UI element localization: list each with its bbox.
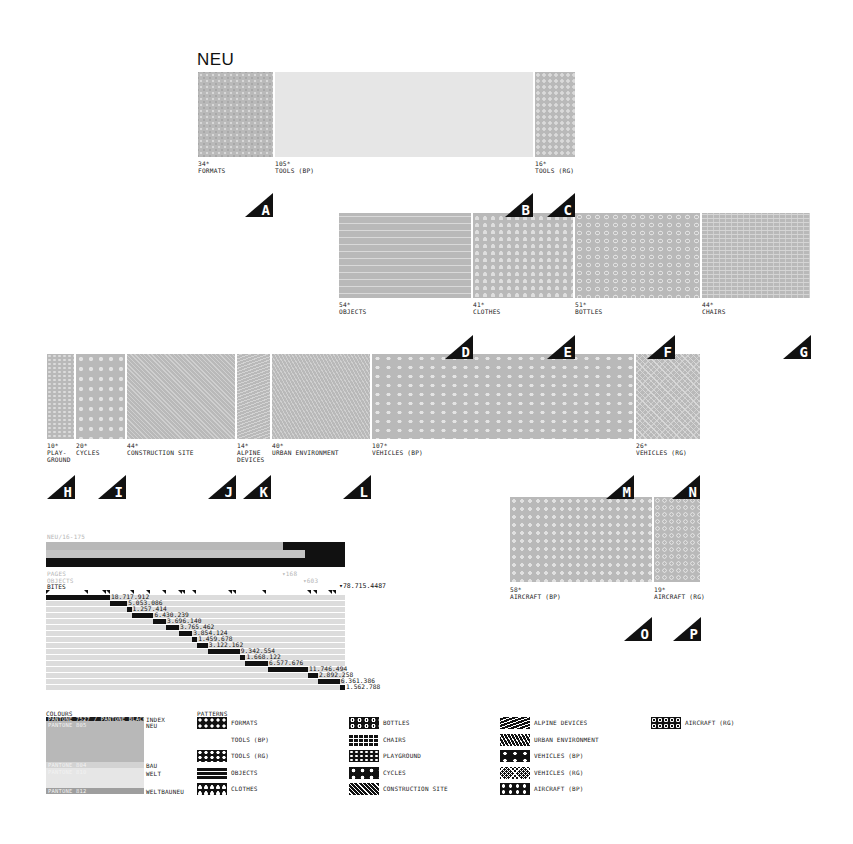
- swatch-bau-name: PANTONE 804: [48, 762, 87, 768]
- value-objects-text: 603: [307, 577, 318, 584]
- label-objects: OBJECTS: [339, 308, 366, 315]
- count-objects: 54*: [339, 301, 351, 308]
- label-tools-rg: TOOLS (RG): [535, 167, 574, 174]
- pattern-tile-aircraft-rg: [654, 497, 700, 582]
- pattern-tile-bottles: [575, 213, 700, 298]
- bites-value: 1.562.788: [346, 684, 380, 690]
- svg-text:J: J: [225, 484, 233, 499]
- pattern-label: URBAN ENVIRONMENT: [534, 736, 599, 743]
- pattern-swatch-cycles: [349, 767, 379, 779]
- bites-row-2: [46, 607, 345, 612]
- count-vehicles-rg: 26*: [636, 442, 648, 449]
- tick-marker: [262, 590, 266, 594]
- pattern-label: OBJECTS: [231, 769, 258, 776]
- pattern-swatch-aircraftrg: [651, 717, 681, 729]
- pattern-tile-tools-bp: [275, 72, 533, 157]
- marker-i: I: [98, 475, 126, 499]
- label-tools-bp: TOOLS (BP): [275, 167, 314, 174]
- pattern-tile-vehicles-bp: [372, 354, 634, 439]
- swatch-welt-name: PANTONE 810: [48, 769, 87, 775]
- swatch-weltbauneu-name: PANTONE 812: [48, 788, 87, 794]
- svg-text:I: I: [115, 484, 123, 499]
- bites-segment: [197, 643, 208, 648]
- marker-g: G: [783, 335, 811, 359]
- pattern-label: CYCLES: [383, 769, 406, 776]
- chart-caption: NEU/16-175: [47, 533, 85, 540]
- label-urban-environment: URBAN ENVIRONMENT: [272, 449, 339, 456]
- pattern-label: VEHICLES (RG): [534, 769, 584, 776]
- tick-marker: [307, 590, 311, 594]
- svg-text:C: C: [564, 202, 572, 217]
- label-aircraft-bp: AIRCRAFT (BP): [510, 593, 561, 600]
- pattern-label: CLOTHES: [231, 785, 258, 792]
- svg-text:H: H: [64, 484, 72, 499]
- marker-p: P: [673, 617, 701, 641]
- svg-text:P: P: [690, 626, 698, 641]
- bites-segment: [240, 655, 246, 660]
- marker-f: F: [647, 335, 675, 359]
- pattern-tile-alpine-devices: [237, 354, 270, 439]
- bites-row-15: [46, 685, 345, 690]
- pattern-tile-construction-site: [127, 354, 235, 439]
- count-urban-environment: 40*: [272, 442, 284, 449]
- label-construction-site: CONSTRUCTION SITE: [127, 449, 194, 456]
- marker-h: H: [47, 475, 75, 499]
- bites-segment: [245, 661, 267, 666]
- tick-marker: [192, 590, 196, 594]
- pattern-label: VEHICLES (BP): [534, 752, 584, 759]
- bites-segment: [153, 619, 166, 624]
- value-bites-total: ▾78.715.4487: [339, 582, 386, 590]
- label-cycles: CYCLES: [76, 449, 100, 456]
- pattern-label: AIRCRAFT (BP): [534, 785, 584, 792]
- triangle-marker-icon: L: [343, 475, 371, 499]
- bites-segment: [308, 673, 318, 678]
- pattern-swatch-toolsrg: [197, 750, 227, 762]
- bites-segment: [110, 601, 127, 606]
- pattern-tile-aircraft-bp: [510, 497, 652, 582]
- value-objects: ▾603: [303, 577, 318, 584]
- bites-value: 6.577.676: [269, 660, 303, 666]
- bites-segment: [179, 631, 192, 636]
- svg-text:L: L: [360, 484, 368, 499]
- pattern-swatch-vehiclesrg: [500, 767, 530, 779]
- pattern-label: AIRCRAFT (RG): [685, 719, 735, 726]
- swatch-neu-name: PANTONE 805: [48, 722, 87, 728]
- tick-marker: [313, 590, 317, 594]
- tick-marker: [232, 590, 236, 594]
- pattern-swatch-formats: [197, 717, 227, 729]
- bites-segment: [318, 679, 340, 684]
- marker-b: B: [505, 193, 533, 217]
- marker-k: K: [243, 475, 271, 499]
- triangle-marker-icon: G: [783, 335, 811, 359]
- pattern-tile-clothes: [473, 213, 573, 298]
- value-bites-total-text: 78.715.4487: [343, 582, 386, 590]
- count-playground: 10*: [47, 442, 59, 449]
- count-formats: 34*: [198, 160, 210, 167]
- pattern-label: TOOLS (RG): [231, 752, 269, 759]
- marker-d: D: [445, 335, 473, 359]
- bites-segment: [127, 607, 131, 612]
- bites-row-1: [46, 601, 345, 606]
- svg-text:K: K: [260, 484, 269, 499]
- count-alpine-devices: 14*: [237, 442, 249, 449]
- triangle-marker-icon: B: [505, 193, 533, 217]
- colour-welt-label: WELT: [146, 770, 161, 777]
- tick-marker: [84, 590, 88, 594]
- triangle-marker-icon: D: [445, 335, 473, 359]
- pattern-tile-urban-environment: [272, 354, 370, 439]
- svg-text:G: G: [800, 344, 808, 359]
- svg-text:A: A: [262, 202, 271, 217]
- count-clothes: 41*: [473, 301, 485, 308]
- pattern-swatch-playground: [349, 750, 379, 762]
- triangle-marker-icon: H: [47, 475, 75, 499]
- svg-text:O: O: [641, 626, 649, 641]
- label-playground: PLAY- GROUND: [47, 449, 71, 463]
- count-tools-bp: 105*: [275, 160, 291, 167]
- tick-marker: [162, 590, 166, 594]
- triangle-marker-icon: F: [647, 335, 675, 359]
- pattern-label: FORMATS: [231, 719, 258, 726]
- triangle-marker-icon: O: [624, 617, 652, 641]
- bites-row-9: [46, 649, 345, 654]
- count-bottles: 51*: [575, 301, 587, 308]
- marker-o: O: [624, 617, 652, 641]
